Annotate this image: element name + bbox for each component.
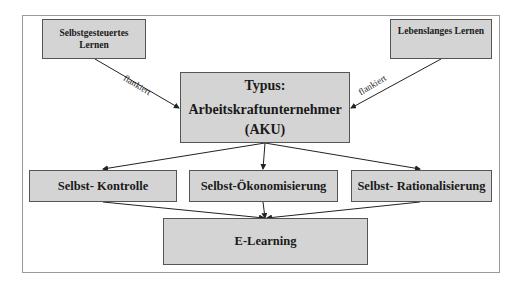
node-label: Selbst- Rationalisierung [357,179,485,194]
node-label: Lebenslanges Lernen [398,25,484,37]
node-label: Selbst- Kontrolle [58,179,148,194]
node-label-line2: Lernen [79,39,109,51]
node-self-directed-learning: Selbstgesteuertes Lernen [42,19,146,59]
center-line3: (AKU) [245,120,285,140]
node-elearning: E-Learning [163,218,368,265]
node-center-aku: Typus: Arbeitskraftunternehmer (AKU) [180,72,350,143]
node-lifelong-learning: Lebenslanges Lernen [390,19,492,59]
node-self-rationalization: Selbst- Rationalisierung [351,170,492,202]
node-label: Selbst-Ökonomisierung [201,179,327,194]
center-line2: Arbeitskraftunternehmer [188,100,341,120]
node-label-line1: Selbstgesteuertes [59,27,128,39]
node-self-economization: Selbst-Ökonomisierung [189,170,338,202]
node-label: E-Learning [235,234,297,249]
center-line1: Typus: [245,76,286,96]
node-self-control: Selbst- Kontrolle [29,170,177,202]
